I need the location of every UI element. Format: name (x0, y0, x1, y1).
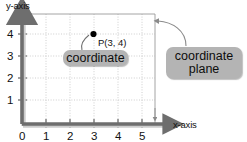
y-axis-label: y-axis (6, 1, 30, 11)
x-tick-1: 1 (43, 131, 49, 142)
callout-coordinate-plane: coordinate plane (166, 47, 242, 79)
grid-horizontal-lines (22, 34, 155, 100)
plotted-point (90, 31, 96, 37)
x-tick-2: 2 (67, 131, 73, 142)
callout-coordinate: coordinate (63, 50, 128, 66)
callout-coordinate-plane-line2: plane (166, 63, 242, 76)
x-tick-5: 5 (139, 131, 145, 142)
x-tick-3: 3 (91, 131, 97, 142)
y-tick-2: 2 (7, 73, 13, 85)
y-tick-1: 1 (7, 95, 13, 107)
y-tick-3: 3 (7, 51, 13, 63)
coordinate-plane-callout-leader (158, 21, 186, 46)
x-axis-label: x-axis (173, 120, 197, 130)
grid-vertical-lines (46, 14, 142, 124)
axis-shadow (23, 20, 170, 126)
coordinate-callout-leader (81, 35, 89, 50)
y-tick-4: 4 (7, 29, 13, 41)
x-tick-4: 4 (115, 131, 121, 142)
coordinate-plane-diagram: y-axis x-axis 4 3 2 1 0 1 2 3 4 5 P(3, 4… (0, 0, 247, 142)
grid-boundary (22, 14, 155, 124)
x-tick-0: 0 (19, 131, 25, 142)
point-label: P(3, 4) (98, 38, 127, 48)
